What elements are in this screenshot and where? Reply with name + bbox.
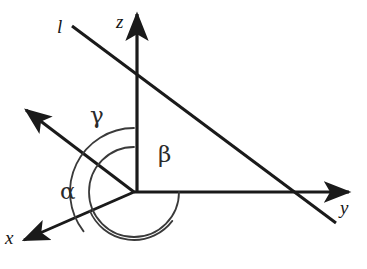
- axis-label-y: y: [340, 198, 348, 217]
- line-label-l: l: [57, 17, 62, 36]
- axes-group: [24, 14, 349, 240]
- axis-label-z: z: [116, 12, 123, 31]
- angle-alpha-arc: [90, 211, 173, 240]
- x-axis: [24, 192, 134, 240]
- axis-label-x: x: [5, 228, 13, 247]
- angle-label-beta: β: [158, 143, 171, 166]
- diagram-canvas: z y x l γ β α: [0, 0, 367, 269]
- angle-label-gamma: γ: [90, 104, 104, 127]
- diagram-svg: [0, 0, 367, 269]
- direction-ray: [26, 110, 134, 192]
- angle-label-alpha: α: [60, 180, 76, 203]
